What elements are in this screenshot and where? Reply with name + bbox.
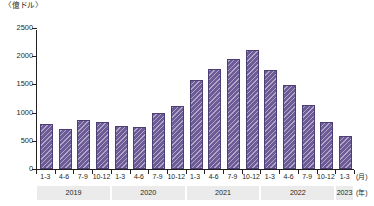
year-band: 2022: [260, 186, 335, 200]
x-axis-year-bands: 20192020202120222023: [36, 186, 354, 200]
bar: [208, 69, 221, 169]
bar: [77, 120, 90, 169]
bar: [152, 113, 165, 169]
x-tick-label: 7-9: [298, 172, 317, 182]
year-band: 2021: [186, 186, 261, 200]
y-axis-tick-labels: 05001000150020002500: [0, 28, 33, 173]
year-band: 2023: [335, 186, 354, 200]
x-tick-label: 4-6: [55, 172, 74, 182]
y-tick-mark: [32, 113, 37, 114]
bar-chart: 〈億ドル〉 05001000150020002500 1-34-67-910-1…: [0, 0, 374, 206]
x-axis-quarter-labels: 1-34-67-910-121-34-67-910-121-34-67-910-…: [36, 172, 354, 183]
x-tick-mark: [354, 170, 355, 174]
y-tick-mark: [32, 28, 37, 29]
x-tick-mark: [111, 170, 112, 174]
x-tick-mark: [92, 170, 93, 174]
bar: [171, 106, 184, 169]
bar: [227, 59, 240, 169]
bar: [59, 129, 72, 169]
x-tick-label: 1-3: [36, 172, 55, 182]
bar: [283, 85, 296, 169]
x-tick-label: 7-9: [73, 172, 92, 182]
x-axis-line: [36, 169, 354, 170]
bar: [246, 50, 259, 169]
x-tick-mark: [167, 170, 168, 174]
y-tick-mark: [32, 141, 37, 142]
x-tick-label: 7-9: [148, 172, 167, 182]
x-tick-label: 4-6: [279, 172, 298, 182]
x-tick-label: 4-6: [204, 172, 223, 182]
bar: [133, 127, 146, 169]
y-tick-label: 2500: [17, 24, 33, 32]
bar: [115, 126, 128, 169]
y-tick-mark: [32, 56, 37, 57]
plot-area: [36, 28, 354, 170]
bar: [264, 70, 277, 169]
x-tick-mark: [130, 170, 131, 174]
x-tick-mark: [223, 170, 224, 174]
y-tick-label: 1500: [17, 80, 33, 88]
x-axis-month-unit: (月): [356, 172, 368, 182]
bar: [302, 105, 315, 169]
x-tick-label: 4-6: [130, 172, 149, 182]
x-tick-label: 1-3: [186, 172, 205, 182]
x-tick-mark: [186, 170, 187, 174]
x-tick-mark: [204, 170, 205, 174]
x-tick-mark: [298, 170, 299, 174]
y-axis-unit-label: 〈億ドル〉: [4, 1, 43, 11]
y-tick-mark: [32, 84, 37, 85]
x-tick-mark: [260, 170, 261, 174]
x-tick-mark: [55, 170, 56, 174]
year-band: 2019: [36, 186, 111, 200]
x-tick-label: 1-3: [111, 172, 130, 182]
y-tick-label: 1000: [17, 109, 33, 117]
x-tick-label: 1-3: [260, 172, 279, 182]
year-band: 2020: [111, 186, 186, 200]
x-tick-mark: [242, 170, 243, 174]
x-tick-label: 10-12: [242, 172, 261, 182]
x-tick-label: 10-12: [92, 172, 111, 182]
bar: [40, 124, 53, 169]
x-tick-mark: [335, 170, 336, 174]
x-axis-year-unit: (年): [356, 186, 368, 200]
bar: [190, 80, 203, 169]
x-tick-label: 10-12: [317, 172, 336, 182]
x-tick-mark: [73, 170, 74, 174]
x-tick-mark: [148, 170, 149, 174]
x-tick-mark: [36, 170, 37, 174]
x-tick-mark: [317, 170, 318, 174]
bar: [96, 122, 109, 169]
x-tick-label: 10-12: [167, 172, 186, 182]
bar: [320, 122, 333, 169]
bar-series: [37, 28, 354, 169]
y-tick-label: 2000: [17, 52, 33, 60]
x-tick-mark: [279, 170, 280, 174]
x-tick-label: 7-9: [223, 172, 242, 182]
bar: [339, 136, 352, 169]
x-tick-label: 1-3: [335, 172, 354, 182]
